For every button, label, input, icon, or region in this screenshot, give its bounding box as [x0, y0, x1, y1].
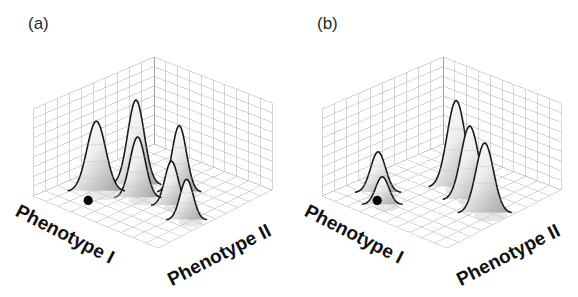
surface-peaks	[68, 100, 206, 227]
panel-b: (b) Phenotype I Phenotype II	[289, 0, 578, 297]
figure-root: (a) Phenotype I Phenotype II (b) Phenoty…	[0, 0, 578, 297]
reference-point-marker	[84, 196, 93, 205]
reference-point-marker	[373, 196, 382, 205]
panel-a: (a) Phenotype I Phenotype II	[0, 0, 289, 297]
